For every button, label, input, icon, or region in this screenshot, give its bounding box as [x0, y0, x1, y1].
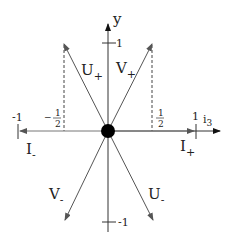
- label-v-minus: V-: [48, 185, 64, 207]
- svg-text:2: 2: [158, 119, 164, 129]
- tick-label-y-neg1: -1: [118, 216, 129, 229]
- tick-label-x-pos1: 1: [192, 110, 199, 123]
- tick-label-neg-half: − 1 2: [44, 108, 61, 129]
- vector-u-plus: [64, 44, 108, 131]
- tick-label-y-pos1: 1: [116, 37, 123, 50]
- label-i-plus: I+: [180, 137, 195, 159]
- vector-u-minus: [108, 131, 153, 220]
- svg-text:2: 2: [55, 119, 61, 129]
- origin-dot: [101, 124, 115, 138]
- y-axis-label: y: [112, 10, 122, 28]
- tick-label-x-neg1: -1: [12, 111, 23, 124]
- svg-text:1: 1: [158, 108, 164, 118]
- label-i-minus: I-: [26, 140, 36, 162]
- label-u-plus: U+: [81, 61, 103, 83]
- weight-diagram: y i3 -1 1 1 -1 − 1 2 1 2 U+ V+ V- U- I- …: [0, 0, 229, 244]
- x-axis-label: i3: [203, 113, 213, 128]
- svg-text:−: −: [44, 112, 52, 122]
- vector-v-plus: [108, 44, 152, 131]
- tick-label-pos-half: 1 2: [156, 108, 164, 129]
- label-v-plus: V+: [115, 59, 136, 81]
- label-u-minus: U-: [148, 185, 165, 207]
- svg-text:1: 1: [55, 108, 61, 118]
- vector-v-minus: [65, 131, 108, 220]
